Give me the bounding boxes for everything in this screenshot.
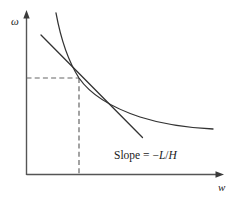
economics-tangency-diagram: ω w Slope = −L/H (0, 0, 237, 197)
y-axis-label: ω (11, 15, 19, 27)
slope-annotation-denominator: H (168, 149, 178, 161)
slope-annotation-prefix: Slope = − (114, 149, 159, 162)
tangent-line (41, 35, 143, 138)
figure-container: ω w Slope = −L/H (0, 0, 237, 197)
y-axis-arrowhead (23, 10, 29, 19)
x-axis-label: w (218, 181, 226, 193)
slope-annotation: Slope = −L/H (114, 149, 178, 162)
slope-annotation-numerator: L (158, 149, 165, 161)
x-axis-arrowhead (216, 171, 225, 177)
